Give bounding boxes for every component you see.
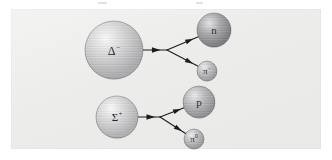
sigma-plus-symbol: Σ: [112, 111, 118, 123]
spheres-group: [85, 13, 231, 150]
delta-minus-decay-incoming-arrowhead: [152, 47, 161, 52]
delta-minus-decay-outgoing-arrowhead-0: [185, 39, 193, 44]
pion-zero-symbol: π: [190, 134, 195, 144]
sigma-plus-decay-outgoing-arrowhead-1: [174, 125, 182, 131]
neutron-symbol: n: [211, 24, 217, 36]
pion-minus-label: π−: [203, 66, 211, 76]
pion-minus-symbol: π: [203, 66, 208, 76]
delta-minus-decay-outgoing-arrowhead-1: [185, 58, 193, 64]
particle-decay-figure: Δ−nπ−Σ+pπ0: [0, 0, 332, 160]
pion-zero-charge-superscript: 0: [195, 133, 198, 139]
delta-minus-decay-outgoing-line-0: [167, 37, 198, 50]
neutron-label: n: [211, 25, 217, 36]
delta-minus-symbol: Δ: [108, 44, 116, 58]
delta-minus-charge-superscript: −: [116, 43, 120, 52]
pion-minus-charge-superscript: −: [208, 65, 211, 71]
pion-zero-label: π0: [190, 134, 198, 144]
decay-graphics-layer: [0, 0, 332, 160]
proton-label: p: [196, 97, 202, 108]
sigma-plus-decay-incoming-arrowhead: [147, 114, 156, 119]
sigma-plus-decay-outgoing-arrowhead-0: [173, 109, 181, 114]
delta-minus-decay-outgoing-line-1: [167, 50, 198, 66]
sigma-plus-charge-superscript: +: [118, 110, 122, 117]
proton-symbol: p: [196, 96, 202, 108]
sigma-plus-label: Σ+: [112, 111, 123, 123]
delta-minus-label: Δ−: [108, 44, 120, 57]
connectors-group: [138, 37, 198, 134]
